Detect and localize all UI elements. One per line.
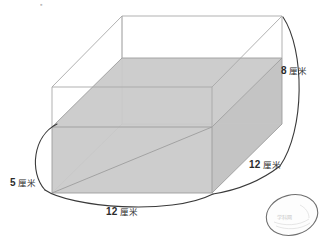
dimension-unit-width: 厘米 [120,207,138,217]
cuboid-water-container-figure [0,0,334,238]
watermark-text: 学科网 [277,213,293,220]
dimension-label-water-depth: 5厘米 [10,178,36,188]
dimension-value-width: 12 [106,206,118,217]
dimension-value-water-depth: 5 [10,177,16,188]
dimension-label-width: 12厘米 [106,207,138,217]
top-crop-mark: ▪ [40,1,58,9]
dimension-label-depth: 12厘米 [249,160,281,170]
dimension-value-depth: 12 [249,159,261,170]
dimension-unit-height: 厘米 [289,66,307,76]
dimension-unit-depth: 厘米 [263,160,281,170]
bracket-height-8 [280,17,299,166]
dimension-label-height: 8厘米 [281,66,307,76]
dimension-unit-water-depth: 厘米 [18,178,36,188]
dimension-value-height: 8 [281,65,287,76]
